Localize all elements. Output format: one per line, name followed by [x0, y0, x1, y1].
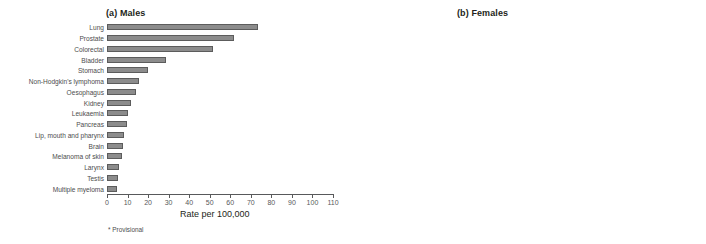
- category-label: Bladder: [81, 56, 104, 63]
- bar-male: [107, 35, 234, 41]
- bar-male: [107, 186, 117, 192]
- bar-row: Testis: [107, 173, 332, 184]
- category-label: Lung: [89, 24, 104, 31]
- category-label: Lip, mouth and pharynx: [35, 131, 104, 138]
- axis-tick: [128, 194, 129, 198]
- axis-tick: [251, 194, 252, 198]
- axis-tick: [148, 194, 149, 198]
- bar-row: Non-Hodgkin's lymphoma: [107, 76, 332, 87]
- bar-male: [107, 100, 131, 106]
- bar-male: [107, 153, 122, 159]
- axis-tick-label: 40: [185, 199, 193, 206]
- category-label: Larynx: [84, 164, 104, 171]
- axis-tick: [271, 194, 272, 198]
- axis-tick-label: 10: [124, 199, 132, 206]
- axis-tick-label: 50: [206, 199, 214, 206]
- category-label: Testis: [87, 174, 104, 181]
- bar-rows-males: LungProstateColorectalBladderStomachNon-…: [107, 22, 332, 194]
- footnote-provisional: * Provisional: [108, 226, 144, 233]
- category-label: Pancreas: [76, 121, 104, 128]
- bar-row: Prostate: [107, 33, 332, 44]
- panel-title-males: (a) Males: [106, 8, 145, 18]
- axis-tick-label: 90: [288, 199, 296, 206]
- bar-row: Larynx: [107, 162, 332, 173]
- bar-row: Leukaemia: [107, 108, 332, 119]
- category-label: Stomach: [78, 67, 104, 74]
- axis-tick-label: 100: [307, 199, 319, 206]
- x-axis-males: 0102030405060708090100110: [107, 194, 333, 195]
- category-label: Melanoma of skin: [52, 153, 104, 160]
- bar-male: [107, 67, 148, 73]
- bar-male: [107, 46, 213, 52]
- chart-panel-females: (b) Females BreastColorectalLungOvaryUte…: [353, 0, 706, 244]
- axis-tick: [210, 194, 211, 198]
- category-label: Leukaemia: [72, 110, 104, 117]
- axis-tick: [230, 194, 231, 198]
- axis-tick-label: 70: [247, 199, 255, 206]
- bar-male: [107, 78, 139, 84]
- category-label: Colorectal: [74, 45, 104, 52]
- bar-male: [107, 24, 258, 30]
- cancer-incidence-figure: (a) Males LungProstateColorectalBladderS…: [0, 0, 706, 244]
- x-axis-title-males: Rate per 100,000: [180, 209, 250, 219]
- bar-row: Stomach: [107, 65, 332, 76]
- chart-panel-males: (a) Males LungProstateColorectalBladderS…: [0, 0, 353, 244]
- bar-row: Bladder: [107, 54, 332, 65]
- axis-tick: [189, 194, 190, 198]
- bar-male: [107, 175, 118, 181]
- category-label: Brain: [89, 142, 104, 149]
- axis-tick: [107, 194, 108, 198]
- bar-row: Lip, mouth and pharynx: [107, 130, 332, 141]
- bar-male: [107, 57, 166, 63]
- axis-tick: [312, 194, 313, 198]
- category-label: Prostate: [79, 35, 104, 42]
- category-label: Kidney: [84, 99, 104, 106]
- plot-area-males: LungProstateColorectalBladderStomachNon-…: [107, 22, 332, 194]
- bar-male: [107, 89, 136, 95]
- bar-row: Melanoma of skin: [107, 151, 332, 162]
- axis-tick-label: 80: [267, 199, 275, 206]
- panel-title-females: (b) Females: [457, 8, 508, 18]
- bar-row: Kidney: [107, 97, 332, 108]
- bar-row: Lung: [107, 22, 332, 33]
- bar-row: Multiple myeloma: [107, 183, 332, 194]
- bar-male: [107, 121, 127, 127]
- axis-tick-label: 60: [226, 199, 234, 206]
- axis-tick-label: 0: [105, 199, 109, 206]
- axis-tick-label: 30: [165, 199, 173, 206]
- axis-tick-label: 20: [144, 199, 152, 206]
- bar-row: Oesophagus: [107, 87, 332, 98]
- axis-tick: [333, 194, 334, 198]
- bar-male: [107, 143, 123, 149]
- category-label: Multiple myeloma: [53, 185, 104, 192]
- bar-male: [107, 110, 128, 116]
- axis-tick-label: 110: [327, 199, 338, 206]
- bar-row: Pancreas: [107, 119, 332, 130]
- bar-male: [107, 164, 119, 170]
- axis-tick: [169, 194, 170, 198]
- bar-row: Brain: [107, 140, 332, 151]
- category-label: Non-Hodgkin's lymphoma: [29, 78, 104, 85]
- axis-tick: [292, 194, 293, 198]
- bar-male: [107, 132, 124, 138]
- category-label: Oesophagus: [67, 88, 104, 95]
- bar-row: Colorectal: [107, 44, 332, 55]
